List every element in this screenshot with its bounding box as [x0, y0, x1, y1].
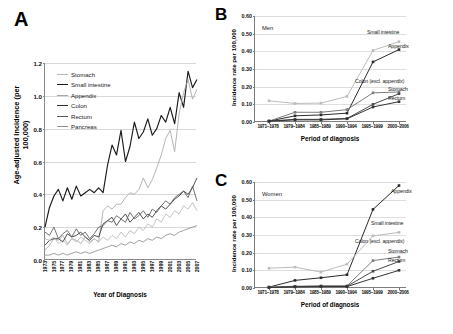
panel-a-letter: A: [14, 8, 28, 31]
series-line-rectum: [269, 270, 399, 287]
x-tick-label: 1997: [149, 261, 155, 272]
y-tick-label: 0.60: [242, 13, 253, 19]
panel-b-plot-area: Men 0.000.100.200.300.400.500.60Small in…: [254, 16, 406, 122]
y-tick-label: 0.60: [242, 179, 253, 185]
data-point-marker: [398, 269, 401, 272]
panel-a-y-axis-title: Age-adjusted Incidence (per 100,000): [12, 70, 30, 200]
data-point-marker: [372, 270, 375, 273]
x-tick-label: 1985: [95, 261, 101, 272]
data-point-marker: [346, 285, 349, 288]
legend-swatch: [57, 105, 68, 106]
data-point-marker: [294, 119, 297, 122]
data-point-marker: [320, 285, 323, 288]
series-line-small-intestine: [269, 42, 399, 104]
data-point-marker: [294, 115, 297, 118]
x-tick-label: 1985–1989: [309, 290, 330, 295]
series-line-stomach: [269, 262, 399, 288]
series-line-rectum: [45, 186, 197, 239]
data-point-marker: [268, 120, 271, 123]
panel-c-plot-area: Women 0.000.100.200.300.400.500.60Append…: [254, 182, 406, 288]
y-tick-label: 0.00: [242, 119, 253, 125]
series-label-appendix: Appendix: [391, 188, 412, 194]
y-tick-label: 0.6: [33, 158, 42, 165]
data-point-marker: [320, 111, 323, 114]
data-point-marker: [268, 286, 271, 289]
legend-swatch: [57, 116, 68, 117]
x-tick-label: 2007: [194, 261, 200, 272]
x-tick-label: 1995–1999: [361, 124, 382, 129]
data-point-marker: [372, 92, 375, 95]
panel-a-legend: StomachSmall intestineAppendixColonRectu…: [57, 69, 137, 132]
legend-label: Rectum: [71, 113, 92, 120]
panel-c-x-tick-labels: 1971–19781979–19841985–19891990–19941995…: [254, 290, 406, 300]
legend-item: Small intestine: [57, 80, 137, 91]
legend-label: Pancreas: [71, 123, 97, 130]
y-tick-label: 0.50: [242, 31, 253, 37]
figure-container: A Age-adjusted Incidence (per 100,000) 0…: [0, 0, 453, 334]
y-tick-label: 0.40: [242, 48, 253, 54]
x-tick-label: 1995–1999: [361, 290, 382, 295]
series-label-rectum: Rectum: [388, 95, 405, 101]
data-point-marker: [398, 184, 401, 187]
series-label-small-intestine: Small intestine: [371, 220, 403, 226]
panel-a-x-tick-labels: 1973197519771979198119831985198719891991…: [44, 261, 196, 287]
data-point-marker: [320, 114, 323, 117]
panel-c-letter: C: [215, 171, 227, 191]
x-tick-label: 2000–2006: [387, 290, 408, 295]
x-tick-label: 1977: [59, 261, 65, 272]
data-point-marker: [372, 235, 375, 238]
data-point-marker: [346, 95, 349, 98]
series-label-appendix: Appendix: [388, 43, 409, 49]
data-point-marker: [294, 279, 297, 282]
panel-b-x-axis-title: Period of diagnosis: [254, 135, 406, 142]
x-tick-label: 1973: [42, 261, 48, 272]
panel-a: A Age-adjusted Incidence (per 100,000) 0…: [0, 0, 212, 334]
x-tick-label: 1995: [140, 261, 146, 272]
x-tick-label: 1975: [51, 261, 57, 272]
data-point-marker: [372, 61, 375, 64]
x-tick-label: 1999: [158, 261, 164, 272]
legend-swatch: [57, 84, 68, 85]
panel-b-letter: B: [215, 5, 227, 25]
y-tick-label: 0.50: [242, 197, 253, 203]
series-label-rectum: Rectum: [388, 257, 405, 263]
y-tick-label: 0.00: [242, 285, 253, 291]
legend-swatch: [57, 74, 68, 75]
x-tick-label: 1990–1994: [335, 290, 356, 295]
legend-item: Stomach: [57, 69, 137, 80]
y-tick-label: 1.2: [33, 60, 42, 67]
legend-item: Pancreas: [57, 122, 137, 133]
series-line-stomach: [45, 203, 197, 246]
y-tick-label: 0.20: [242, 84, 253, 90]
legend-item: Colon: [57, 101, 137, 112]
y-tick-mark: [253, 288, 256, 289]
data-point-marker: [346, 273, 349, 276]
data-point-marker: [320, 102, 323, 105]
x-tick-label: 2003: [176, 261, 182, 272]
y-tick-label: 0.10: [242, 101, 253, 107]
data-point-marker: [372, 208, 375, 211]
data-point-marker: [398, 231, 401, 234]
data-point-marker: [346, 108, 349, 111]
panel-c-y-axis-title: Incidence rate per 100,000: [230, 175, 237, 293]
data-point-marker: [320, 119, 323, 122]
data-point-marker: [372, 49, 375, 52]
series-label-colon-excl-appendix-: Colon (excl. appendix): [355, 238, 404, 244]
x-tick-label: 1979–1984: [283, 124, 304, 129]
data-point-marker: [294, 266, 297, 269]
series-line-appendix: [269, 186, 399, 288]
y-tick-mark: [253, 122, 256, 123]
y-tick-label: 0.30: [242, 66, 253, 72]
legend-item: Rectum: [57, 111, 137, 122]
legend-item: Appendix: [57, 90, 137, 101]
data-point-marker: [372, 106, 375, 109]
data-point-marker: [372, 277, 375, 280]
panel-c-series-group: [255, 182, 407, 288]
data-point-marker: [320, 276, 323, 279]
x-tick-label: 1990–1994: [335, 124, 356, 129]
data-point-marker: [268, 267, 271, 270]
data-point-marker: [346, 263, 349, 266]
x-tick-label: 1983: [86, 261, 92, 272]
legend-label: Small intestine: [71, 81, 111, 88]
data-point-marker: [294, 102, 297, 105]
